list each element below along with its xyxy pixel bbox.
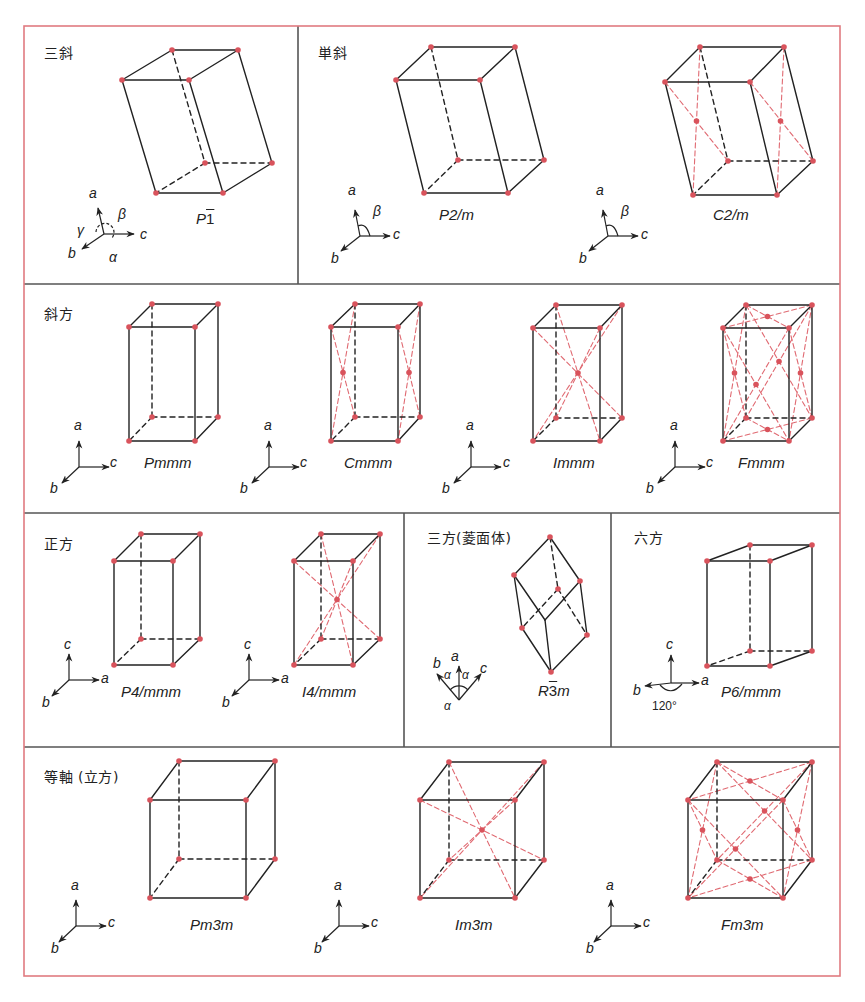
axis-label-a: a	[701, 672, 709, 688]
axis-label-a: a	[101, 670, 109, 686]
axis-label-c: c	[140, 226, 147, 242]
panel-label-cubic: 等軸 (立方)	[44, 766, 119, 786]
axis-label-b: b	[240, 480, 248, 496]
lattice-symbol-p4mmm: P4/mmm	[121, 683, 181, 700]
axis-label-b: b	[586, 940, 594, 956]
axis-label-b: b	[442, 480, 450, 496]
axis-label-c: c	[108, 914, 115, 930]
lattice-symbol-immm: Immm	[553, 454, 595, 471]
axis-label-a: a	[281, 670, 289, 686]
axis-label-a: a	[89, 185, 97, 201]
axis-label-a: a	[74, 417, 82, 433]
axis-label-alpha: α	[444, 668, 451, 682]
lattice-diagram-canvas	[0, 0, 865, 1002]
axis-label-b: b	[646, 480, 654, 496]
panel-label-orthorhombic: 斜方	[44, 303, 73, 323]
axis-label-c: c	[64, 636, 71, 652]
lattice-symbol-p2m: P2/m	[439, 206, 474, 223]
axis-label-c: c	[300, 454, 307, 470]
axis-label-a: a	[264, 417, 272, 433]
axis-label-beta: β	[118, 206, 126, 222]
axis-label-alpha: α	[462, 668, 469, 682]
axis-label-a: a	[451, 648, 459, 664]
axis-label-a: a	[606, 877, 614, 893]
axis-label-beta: β	[373, 203, 381, 219]
lattice-symbol-im3m: Im3m	[455, 916, 493, 933]
panel-label-monoclinic: 単斜	[318, 42, 347, 62]
axis-label-c: c	[706, 454, 713, 470]
lattice-symbol-i4mmm: I4/mmm	[302, 683, 356, 700]
panel-label-triclinic: 三斜	[44, 42, 73, 62]
lattice-symbol-r3m: R3m	[538, 682, 570, 699]
panel-label-tetragonal: 正方	[44, 533, 73, 553]
lattice-symbol-fmmm: Fmmm	[738, 454, 785, 471]
axis-label-c: c	[110, 454, 117, 470]
outer-frame	[24, 26, 840, 976]
axis-label-c: c	[666, 636, 673, 652]
axis-label-b: b	[68, 245, 76, 261]
axis-label-a: a	[334, 877, 342, 893]
axis-label-b: b	[42, 694, 50, 710]
axis-label-a: a	[670, 417, 678, 433]
axis-label-a: a	[71, 877, 79, 893]
axis-label-b: b	[633, 682, 641, 698]
axis-label-b: b	[314, 940, 322, 956]
axis-label-gamma: γ	[77, 222, 84, 238]
axis-label-c: c	[643, 914, 650, 930]
axis-label-b: b	[51, 940, 59, 956]
lattice-symbol-p6mmm: P6/mmm	[721, 683, 781, 700]
lattice-symbol-triclinic: P1	[196, 210, 214, 227]
axis-label-c: c	[371, 914, 378, 930]
lattice-symbol-pmmm: Pmmm	[144, 454, 192, 471]
lattice-symbol-c2m: C2/m	[713, 206, 749, 223]
axis-label-c: c	[480, 660, 487, 676]
bravais-lattice-figure: 三斜 単斜 斜方 正方 三方(菱面体) 六方 等軸 (立方) P1 P2/m C…	[0, 0, 865, 1002]
axis-label-a: a	[596, 182, 604, 198]
axis-label-b: b	[579, 250, 587, 266]
axis-label-b: b	[50, 480, 58, 496]
axis-label-alpha: α	[109, 249, 117, 265]
axis-label-b: b	[222, 694, 230, 710]
axis-label-a: a	[348, 182, 356, 198]
axis-label-b: b	[433, 655, 441, 671]
lattice-symbol-fm3m: Fm3m	[721, 916, 764, 933]
axis-label-a: a	[466, 417, 474, 433]
panel-label-hexagonal: 六方	[634, 527, 663, 547]
panel-label-trigonal: 三方(菱面体)	[427, 527, 511, 547]
lattice-symbol-cmmm: Cmmm	[344, 454, 392, 471]
axis-label-c: c	[641, 226, 648, 242]
axis-label-beta: β	[621, 203, 629, 219]
lattice-symbol-pm3m: Pm3m	[190, 916, 233, 933]
axis-label-c: c	[244, 636, 251, 652]
axis-label-c: c	[503, 454, 510, 470]
axis-angle-120: 120°	[652, 699, 677, 713]
axis-label-c: c	[393, 226, 400, 242]
axis-label-alpha: α	[444, 699, 451, 713]
axis-label-b: b	[331, 250, 339, 266]
